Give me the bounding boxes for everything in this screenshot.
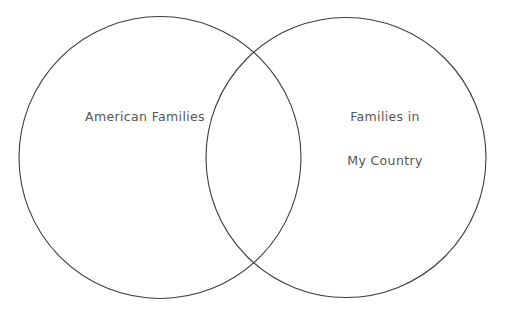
venn-label-left: American Families bbox=[45, 84, 245, 150]
venn-diagram: American Families Families in My Country bbox=[0, 0, 517, 312]
venn-circle-left[interactable] bbox=[19, 17, 301, 299]
venn-label-right-line-1: Families in bbox=[306, 106, 464, 128]
venn-label-right-line-2: My Country bbox=[306, 150, 464, 172]
venn-label-right: Families in My Country bbox=[306, 84, 464, 194]
venn-label-left-line-1: American Families bbox=[45, 106, 245, 128]
